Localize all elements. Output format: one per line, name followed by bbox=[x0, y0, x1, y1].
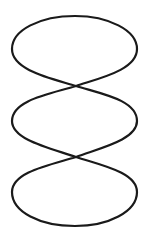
curve-path bbox=[12, 16, 137, 226]
figure-canvas bbox=[0, 0, 147, 237]
three-lobe-curve bbox=[0, 0, 147, 237]
